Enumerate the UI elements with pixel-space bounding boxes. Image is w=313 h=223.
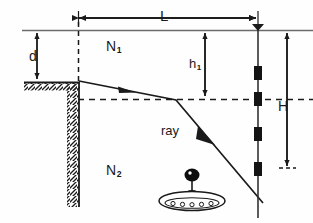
label-height-h1: h1 xyxy=(189,57,201,70)
label-medium-n2-subscript: 2 xyxy=(117,169,122,179)
diagram-canvas xyxy=(0,0,313,223)
label-medium-n2: N2 xyxy=(106,163,121,177)
sensor-cable xyxy=(252,24,264,218)
label-height-H: H xyxy=(278,99,288,113)
label-depth-d: d xyxy=(29,49,37,63)
submersible-vehicle xyxy=(159,169,225,211)
ray-diagram-figure: L d N1 N2 h1 H ray xyxy=(0,0,313,223)
label-medium-n2-letter: N xyxy=(106,162,116,178)
label-height-h1-letter: h xyxy=(189,56,196,71)
label-length-L: L xyxy=(160,8,168,23)
label-medium-n1-letter: N xyxy=(106,38,116,54)
label-ray: ray xyxy=(161,124,179,137)
label-medium-n1-subscript: 1 xyxy=(117,45,122,55)
label-height-h1-subscript: 1 xyxy=(197,63,201,72)
shelf-boundary xyxy=(24,82,80,207)
label-medium-n1: N1 xyxy=(106,39,121,53)
